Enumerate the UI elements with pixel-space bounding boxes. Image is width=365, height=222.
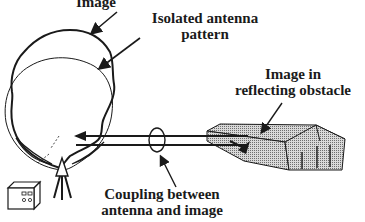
image-label: Image	[66, 0, 126, 10]
image-label-arrow	[92, 12, 117, 33]
transmitter-box-icon	[8, 182, 40, 209]
building-obstacle-icon	[207, 124, 345, 170]
isolated-antenna-pattern-lobe	[5, 58, 112, 170]
coupling-arrowhead-left	[74, 131, 86, 141]
isolated-label-arrow	[100, 38, 140, 68]
isolated-antenna-pattern-label: Isolated antenna pattern	[135, 10, 275, 42]
isolated-label-line1: Isolated antenna	[135, 10, 275, 26]
coupling-label: Coupling between antenna and image	[82, 186, 242, 218]
coupling-label-arrow	[161, 157, 176, 187]
isolated-label-line2: pattern	[135, 26, 275, 42]
reflecting-obstacle-label: Image in reflecting obstacle	[218, 66, 365, 98]
antenna-image-coupling-diagram: Image Isolated antenna pattern Image in …	[0, 0, 365, 222]
coupling-label-line2: antenna and image	[82, 202, 242, 218]
reflect-label-line2: reflecting obstacle	[218, 82, 365, 98]
coupling-ellipse-marker	[149, 128, 165, 152]
coupling-label-line1: Coupling between	[82, 186, 242, 202]
antenna-icon	[54, 158, 71, 200]
image-label-text: Image	[76, 0, 116, 10]
reflect-label-line1: Image in	[218, 66, 365, 82]
